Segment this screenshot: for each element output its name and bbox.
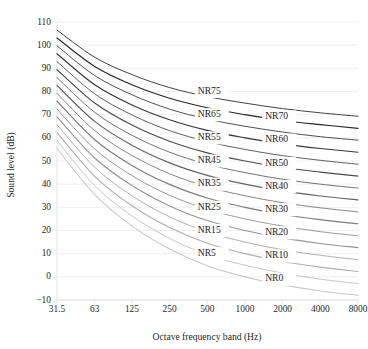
curve-label-nr65: NR65	[198, 108, 221, 119]
curve-label-nr70: NR70	[265, 110, 288, 121]
x-tick-labels-group: 31.5631252505001000200040008000	[49, 304, 368, 314]
x-tick-label: 250	[163, 304, 177, 314]
y-tick-label: 60	[42, 132, 52, 142]
nr-curve-nr25	[57, 109, 358, 236]
curve-label-nr20: NR20	[265, 226, 288, 237]
y-tick-labels-group: −100102030405060708090100110	[36, 17, 51, 305]
curve-label-nr50: NR50	[265, 157, 288, 168]
y-tick-label: 30	[42, 202, 52, 212]
y-tick-label: 10	[42, 248, 52, 258]
curve-label-nr35: NR35	[198, 177, 221, 188]
x-tick-label: 4000	[311, 304, 330, 314]
y-tick-label: 40	[42, 179, 52, 189]
x-tick-label: 500	[200, 304, 214, 314]
curve-label-nr15: NR15	[198, 224, 221, 235]
x-tick-label: 2000	[273, 304, 292, 314]
nr-curves-chart: −100102030405060708090100110 31.56312525…	[0, 0, 368, 349]
curve-label-nr55: NR55	[198, 131, 221, 142]
y-tick-label: 50	[42, 156, 52, 166]
chart-canvas: −100102030405060708090100110 31.56312525…	[0, 0, 368, 349]
y-tick-label: 20	[42, 225, 52, 235]
curve-label-nr60: NR60	[265, 133, 288, 144]
nr-curve-nr75	[57, 30, 358, 116]
y-tick-label: −10	[36, 295, 51, 305]
x-tick-label: 8000	[349, 304, 368, 314]
x-tick-label: 63	[90, 304, 100, 314]
y-tick-label: 70	[42, 109, 52, 119]
y-tick-label: 80	[42, 86, 52, 96]
x-tick-label: 31.5	[49, 304, 66, 314]
x-tick-label: 1000	[236, 304, 255, 314]
curve-label-nr0: NR0	[265, 272, 283, 283]
curve-label-nr40: NR40	[265, 180, 288, 191]
curve-label-nr30: NR30	[265, 203, 288, 214]
curve-label-nr10: NR10	[265, 249, 288, 260]
y-tick-label: 100	[37, 40, 51, 50]
y-tick-label: 0	[46, 271, 51, 281]
y-tick-label: 110	[37, 17, 51, 27]
y-axis-title: Sound level (dB)	[5, 132, 17, 198]
curve-label-nr25: NR25	[198, 201, 221, 212]
nr-curve-nr0	[57, 148, 358, 295]
y-tick-label: 90	[42, 63, 52, 73]
curve-label-nr75: NR75	[198, 85, 221, 96]
curve-label-nr5: NR5	[198, 247, 216, 258]
curve-label-nr45: NR45	[198, 154, 221, 165]
x-tick-label: 125	[125, 304, 139, 314]
x-axis-title: Octave frequency band (Hz)	[153, 331, 262, 343]
